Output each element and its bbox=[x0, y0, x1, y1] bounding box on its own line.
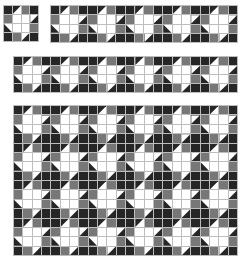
white-square bbox=[210, 25, 218, 33]
triangle-shape bbox=[219, 34, 227, 42]
triangle-shape bbox=[191, 115, 199, 123]
dark-square bbox=[191, 34, 199, 42]
gray-square bbox=[145, 144, 153, 152]
dark-square bbox=[79, 144, 87, 152]
half-square-triangle bbox=[163, 25, 171, 33]
half-square-triangle bbox=[51, 237, 59, 245]
half-square-triangle bbox=[117, 66, 125, 74]
white-square bbox=[98, 228, 106, 236]
dark-square bbox=[154, 134, 162, 142]
half-square-triangle bbox=[154, 66, 162, 74]
half-square-triangle bbox=[61, 181, 69, 189]
triangle-shape bbox=[88, 25, 96, 33]
dark-square bbox=[116, 34, 124, 42]
dark-square bbox=[126, 57, 134, 65]
dark-square bbox=[163, 57, 171, 65]
triangle-shape bbox=[163, 25, 171, 33]
gray-square bbox=[70, 181, 78, 189]
white-square bbox=[61, 237, 69, 245]
gray-square bbox=[135, 34, 143, 42]
pinwheel-block bbox=[88, 6, 124, 42]
gray-square bbox=[173, 34, 181, 42]
white-square bbox=[70, 75, 78, 83]
triangle-shape bbox=[191, 15, 199, 23]
half-square-triangle bbox=[173, 144, 181, 152]
dark-square bbox=[51, 134, 59, 142]
triangle-shape bbox=[116, 15, 124, 23]
white-square bbox=[145, 125, 153, 133]
pinwheel-block bbox=[51, 57, 87, 92]
dark-square bbox=[163, 181, 171, 189]
white-square bbox=[173, 25, 181, 33]
gray-square bbox=[98, 34, 106, 42]
triangle-shape bbox=[210, 106, 218, 114]
pinwheel-block bbox=[89, 57, 125, 92]
dark-square bbox=[51, 106, 59, 114]
gray-square bbox=[210, 84, 218, 92]
triangle-shape bbox=[229, 115, 237, 123]
white-square bbox=[22, 24, 30, 32]
dark-square bbox=[201, 57, 209, 65]
triangle-shape bbox=[117, 66, 125, 74]
half-square-triangle bbox=[144, 34, 152, 42]
half-square-triangle bbox=[107, 247, 115, 255]
white-square bbox=[173, 15, 181, 23]
half-square-triangle bbox=[23, 57, 31, 65]
white-square bbox=[107, 228, 115, 236]
gray-square bbox=[154, 162, 162, 170]
triangle-shape bbox=[163, 162, 171, 170]
dark-square bbox=[79, 247, 87, 255]
white-square bbox=[145, 115, 153, 123]
gray-square bbox=[79, 162, 87, 170]
gray-square bbox=[107, 181, 115, 189]
gray-square bbox=[145, 57, 153, 65]
pinwheel-block bbox=[126, 57, 162, 92]
dark-square bbox=[163, 84, 171, 92]
white-square bbox=[219, 228, 227, 236]
half-square-triangle bbox=[70, 84, 78, 92]
triangle-shape bbox=[107, 34, 115, 42]
white-square bbox=[60, 25, 68, 33]
dark-square bbox=[51, 6, 59, 14]
gray-square bbox=[154, 200, 162, 208]
gray-square bbox=[144, 6, 152, 14]
half-square-triangle bbox=[51, 200, 59, 208]
half-square-triangle bbox=[117, 190, 125, 198]
gray-square bbox=[4, 15, 12, 23]
half-square-triangle bbox=[219, 84, 227, 92]
pinwheel-block bbox=[126, 6, 162, 42]
gray-square bbox=[191, 200, 199, 208]
half-square-triangle bbox=[23, 181, 31, 189]
half-square-triangle bbox=[107, 34, 115, 42]
gray-square bbox=[51, 66, 59, 74]
dark-square bbox=[51, 172, 59, 180]
gray-square bbox=[51, 190, 59, 198]
dark-square bbox=[163, 247, 171, 255]
gray-square bbox=[23, 172, 31, 180]
gray-square bbox=[79, 25, 87, 33]
white-square bbox=[33, 153, 41, 161]
white-square bbox=[61, 228, 69, 236]
half-square-triangle bbox=[107, 209, 115, 217]
dark-square bbox=[117, 84, 125, 92]
white-square bbox=[145, 66, 153, 74]
half-square-triangle bbox=[201, 237, 209, 245]
pinwheel-block bbox=[4, 6, 38, 41]
gray-square bbox=[33, 181, 41, 189]
triangle-shape bbox=[42, 66, 50, 74]
white-square bbox=[173, 228, 181, 236]
dark-square bbox=[51, 219, 59, 227]
triangle-shape bbox=[229, 66, 237, 74]
white-square bbox=[182, 190, 190, 198]
triangle-shape bbox=[191, 190, 199, 198]
half-square-triangle bbox=[88, 25, 96, 33]
triangle-shape bbox=[30, 15, 38, 23]
half-square-triangle bbox=[89, 162, 97, 170]
triangle-shape bbox=[219, 247, 227, 255]
half-square-triangle bbox=[191, 153, 199, 161]
white-square bbox=[98, 162, 106, 170]
gray-square bbox=[107, 144, 115, 152]
white-square bbox=[33, 75, 41, 83]
triangle-shape bbox=[229, 228, 237, 236]
triangle-shape bbox=[79, 115, 87, 123]
